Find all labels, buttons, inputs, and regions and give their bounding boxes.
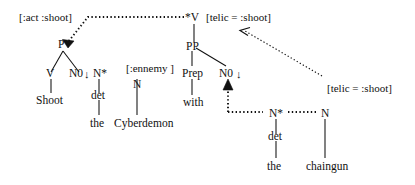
node-N0-right: N0 (219, 67, 233, 79)
node-N0-left: N0 (69, 67, 83, 79)
node-Nstar-right: N* (269, 107, 283, 119)
tag-derivation-diagram: [:act :shoot] [telic = :shoot] [:ennemy … (0, 0, 415, 185)
node-det-right: det (268, 130, 283, 142)
node-det-left: det (91, 89, 106, 101)
node-Nstar-left: N* (93, 67, 107, 79)
node-V: V (46, 67, 55, 79)
feature-label-act-shoot: [:act :shoot] (19, 11, 72, 23)
word-the-right: the (267, 160, 281, 172)
word-cyberdemon: Cyberdemon (114, 117, 174, 130)
node-Prep: Prep (182, 67, 203, 80)
derivation-link-telic-feature (245, 31, 322, 76)
derivation-arrowhead-telic (240, 28, 250, 36)
node-PP: PP (186, 40, 199, 52)
substitution-arrow-right-icon: ↓ (236, 68, 242, 80)
word-shoot: Shoot (36, 94, 64, 106)
word-with: with (183, 96, 204, 108)
edge-PP-to-N0 (196, 48, 226, 66)
feature-label-ennemy: [:ennemy ] (126, 62, 174, 74)
derivation-arrowhead-at-N0 (223, 79, 233, 90)
chaingun-tree-group (276, 119, 325, 158)
with-tree-group (192, 24, 226, 95)
diagram-canvas: [:act :shoot] [telic = :shoot] [:ennemy … (0, 0, 415, 185)
derivation-link-adjoin-V (68, 17, 184, 42)
substitution-arrow-left-icon: ↓ (84, 68, 90, 80)
word-chaingun: chaingun (306, 160, 348, 173)
feature-label-telic-top: [telic = :shoot] (206, 11, 271, 23)
node-N-cyberdemon: N (133, 78, 142, 90)
feature-label-telic-bottom: [telic = :shoot] (327, 82, 392, 94)
node-Vstar: *V (185, 11, 200, 23)
node-N-chaingun: N (321, 107, 330, 119)
node-P: P (58, 38, 64, 50)
word-the-left: the (90, 117, 104, 129)
